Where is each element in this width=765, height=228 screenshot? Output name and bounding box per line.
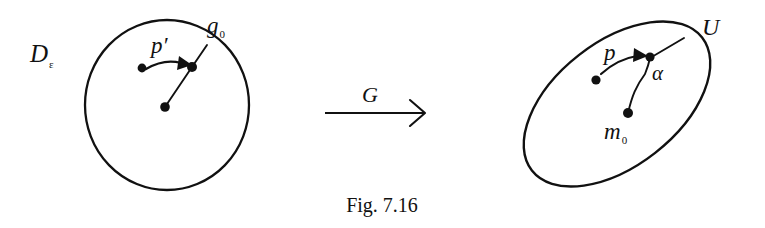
motion-arrowhead-p: [633, 48, 648, 62]
label-image-point-alpha: α: [652, 61, 664, 85]
label-region-D: Dε: [29, 40, 54, 70]
label-center-point-m0: m0: [604, 119, 628, 146]
motion-arc-p-prime: [146, 62, 181, 69]
figure-canvas: Dε g0 p′ G: [0, 0, 765, 228]
figure-caption: Fig. 7.16: [346, 194, 418, 217]
label-map-G: G: [362, 82, 378, 107]
line-alpha-to-U: [650, 38, 684, 58]
ellipse-interior-dot: [591, 75, 600, 84]
map-arrow-group: G: [325, 82, 425, 126]
label-boundary-point-U: U: [702, 14, 721, 40]
disc-interior-dot: [138, 64, 147, 73]
right-panel-ellipse-group: U α m0 p: [494, 0, 741, 219]
figure-7-16: Dε g0 p′ G: [0, 0, 765, 228]
ellipse-center-dot-m0: [623, 108, 633, 118]
left-panel-disc-group: Dε g0 p′: [29, 13, 249, 190]
connector-m0-to-alpha: [628, 58, 650, 113]
label-motion-p-prime: p′: [149, 33, 169, 58]
disc-boundary-dot-g0: [187, 62, 197, 72]
radius-line-to-g0: [165, 45, 207, 107]
disc-center-dot: [160, 102, 170, 112]
label-boundary-point-g0: g0: [207, 13, 226, 40]
label-motion-p: p: [602, 40, 616, 65]
